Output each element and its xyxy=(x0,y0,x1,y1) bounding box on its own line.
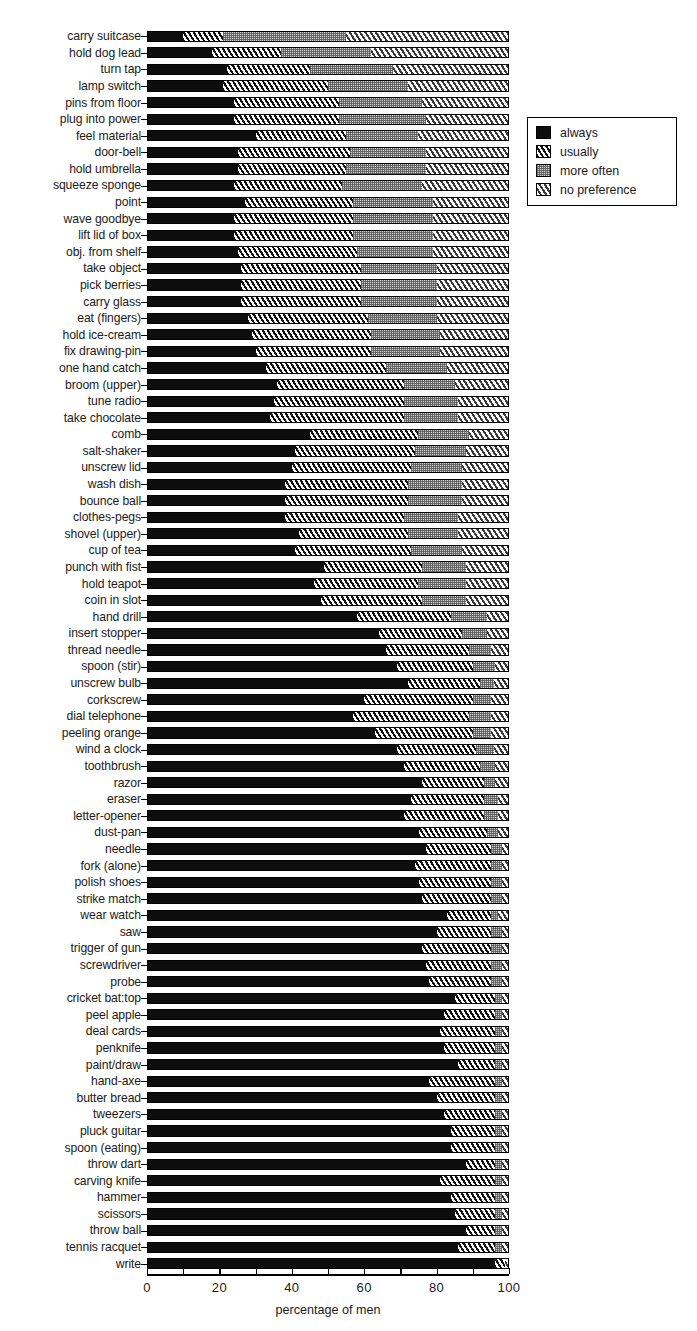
bar-segment-more-often xyxy=(422,595,465,606)
bar-segment-usually xyxy=(364,694,473,705)
top-cutoff-artifact xyxy=(0,0,697,1)
bar-segment-usually xyxy=(437,1092,495,1103)
bar-row xyxy=(147,64,509,75)
bar-row xyxy=(147,47,509,58)
bar-row xyxy=(147,1142,509,1153)
bar-segment-usually xyxy=(466,1225,495,1236)
bar-segment-no-preference xyxy=(498,827,509,838)
bar-segment-more-often xyxy=(451,611,487,622)
bar-segment-more-often xyxy=(408,495,462,506)
bar-row xyxy=(147,843,509,854)
legend-label: always xyxy=(560,126,598,140)
bar-row xyxy=(147,197,509,208)
bar-segment-always xyxy=(147,744,397,755)
y-axis-label: spoon (eating) xyxy=(1,1142,141,1155)
legend-swatch-more-often-icon xyxy=(536,164,551,177)
bar-row xyxy=(147,445,509,456)
legend-item: always xyxy=(536,125,668,140)
bar-segment-no-preference xyxy=(437,279,509,290)
bar-segment-usually xyxy=(415,860,491,871)
bar-row xyxy=(147,877,509,888)
bar-row xyxy=(147,263,509,274)
bar-segment-more-often xyxy=(484,810,498,821)
bar-segment-usually xyxy=(234,114,339,125)
bar-segment-more-often xyxy=(404,412,458,423)
bar-row xyxy=(147,694,509,705)
bar-segment-no-preference xyxy=(458,528,509,539)
y-axis-label: polish shoes xyxy=(1,876,141,889)
bar-segment-more-often xyxy=(495,1242,502,1253)
bar-segment-more-often xyxy=(411,545,462,556)
bar-segment-more-often xyxy=(491,960,502,971)
bar-segment-more-often xyxy=(495,1208,502,1219)
bar-segment-always xyxy=(147,1142,451,1153)
bar-segment-no-preference xyxy=(440,329,509,340)
y-axis-label: throw ball xyxy=(1,1224,141,1237)
bar-segment-no-preference xyxy=(502,1225,509,1236)
bar-segment-usually xyxy=(375,727,473,738)
bar-segment-always xyxy=(147,1225,466,1236)
bar-segment-usually xyxy=(285,512,404,523)
bar-segment-no-preference xyxy=(466,578,509,589)
y-axis-label: hold dog lead xyxy=(1,47,141,60)
y-axis-label: one hand catch xyxy=(1,362,141,375)
bar-row xyxy=(147,893,509,904)
bar-segment-usually xyxy=(321,595,422,606)
bar-segment-no-preference xyxy=(462,545,509,556)
bar-segment-no-preference xyxy=(502,877,509,888)
bar-segment-no-preference xyxy=(502,1109,509,1120)
bar-segment-always xyxy=(147,761,404,772)
y-axis-label: cricket bat:top xyxy=(1,992,141,1005)
bar-segment-more-often xyxy=(495,993,502,1004)
y-axis-label: door-bell xyxy=(1,146,141,159)
bar-row xyxy=(147,661,509,672)
y-axis-label: lift lid of box xyxy=(1,229,141,242)
legend-item: usually xyxy=(536,144,668,159)
bar-segment-no-preference xyxy=(466,595,509,606)
bar-row xyxy=(147,644,509,655)
bar-segment-always xyxy=(147,263,241,274)
bar-segment-no-preference xyxy=(491,711,509,722)
legend: alwaysusuallymore oftenno preference xyxy=(527,117,677,206)
bar-row xyxy=(147,810,509,821)
bar-row xyxy=(147,943,509,954)
bar-row xyxy=(147,97,509,108)
bar-segment-always xyxy=(147,595,321,606)
bar-row xyxy=(147,1175,509,1186)
bar-segment-always xyxy=(147,1258,495,1269)
bar-segment-no-preference xyxy=(418,130,509,141)
y-axis-label: scissors xyxy=(1,1208,141,1221)
bar-segment-more-often xyxy=(473,661,495,672)
bar-segment-usually xyxy=(447,910,490,921)
bar-segment-no-preference xyxy=(502,1192,509,1203)
bar-row xyxy=(147,230,509,241)
bar-segment-always xyxy=(147,163,238,174)
bar-segment-more-often xyxy=(353,230,433,241)
bar-segment-always xyxy=(147,1242,458,1253)
bar-segment-no-preference xyxy=(462,479,509,490)
bar-segment-usually xyxy=(285,495,408,506)
y-axis-label: peel apple xyxy=(1,1009,141,1022)
bar-segment-usually xyxy=(324,561,422,572)
bar-segment-no-preference xyxy=(502,1076,509,1087)
bar-row xyxy=(147,611,509,622)
bar-segment-more-often xyxy=(473,694,491,705)
bar-segment-usually xyxy=(440,1026,494,1037)
bar-row xyxy=(147,114,509,125)
bar-segment-no-preference xyxy=(502,1059,509,1070)
bar-row xyxy=(147,744,509,755)
y-axis-label: pins from floor xyxy=(1,97,141,110)
bar-segment-no-preference xyxy=(502,1242,509,1253)
bar-segment-no-preference xyxy=(502,1042,509,1053)
y-axis-label: eat (fingers) xyxy=(1,312,141,325)
bar-row xyxy=(147,279,509,290)
bar-segment-no-preference xyxy=(498,794,509,805)
bar-segment-no-preference xyxy=(502,1142,509,1153)
bar-segment-more-often xyxy=(310,64,393,75)
bar-segment-no-preference xyxy=(426,114,509,125)
bar-segment-no-preference xyxy=(502,943,509,954)
bar-row xyxy=(147,180,509,191)
bar-segment-always xyxy=(147,561,324,572)
y-axis-label: turn tap xyxy=(1,63,141,76)
bar-row xyxy=(147,761,509,772)
